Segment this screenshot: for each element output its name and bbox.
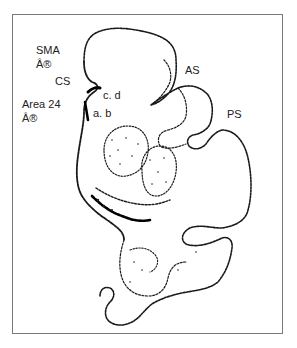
label-sma-mark: Â® — [36, 58, 51, 70]
temporal-lobe — [120, 240, 186, 296]
label-area24-mark: Â® — [22, 112, 37, 124]
label-as: AS — [185, 64, 200, 76]
label-cs: CS — [55, 75, 70, 87]
label-sma: SMA — [36, 44, 60, 56]
label-area24: Area 24 — [22, 98, 61, 110]
label-ab: a. b — [93, 107, 111, 119]
label-ps: PS — [227, 108, 242, 120]
label-cd: c. d — [103, 89, 121, 101]
putamen-nucleus — [142, 146, 177, 196]
